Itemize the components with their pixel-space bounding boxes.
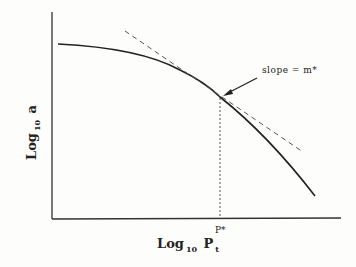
slope-annotation: slope = m*: [262, 65, 317, 75]
arrow-head-icon: [223, 89, 233, 96]
y-label-log: Log: [24, 133, 39, 160]
x-label-log: Log: [157, 236, 184, 251]
y-label-sub: 10: [32, 120, 42, 131]
diagram-canvas: [0, 0, 356, 267]
y-axis-label: Log10 a: [24, 105, 42, 160]
y-label-var: a: [24, 105, 39, 113]
x-label-sub: 10: [186, 244, 197, 254]
x-label-var-sub: t: [215, 244, 219, 254]
x-axis: [52, 218, 341, 219]
p-star-label: P*: [215, 225, 226, 235]
x-axis-label: Log10 Pt: [157, 236, 221, 254]
x-label-var: P: [204, 236, 214, 251]
